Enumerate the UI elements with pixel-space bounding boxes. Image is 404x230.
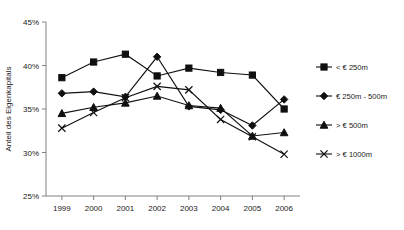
- legend-label: > € 1000m: [336, 150, 372, 159]
- marker-square: [154, 73, 160, 79]
- marker-square: [321, 64, 327, 70]
- marker-square: [59, 75, 65, 81]
- x-tick-label: 2004: [212, 204, 230, 213]
- marker-square: [218, 69, 224, 75]
- legend-item-2[interactable]: € 250m - 500m: [316, 92, 387, 101]
- x-tick-label: 2000: [85, 204, 103, 213]
- x-tick-label: 2002: [148, 204, 166, 213]
- chart-container: 45%40%35%30%25%1999200020012002200320042…: [0, 0, 404, 230]
- x-axis-ticks: 19992000200120022003200420052006: [53, 196, 294, 213]
- series-line: [62, 86, 284, 154]
- line-chart: 45%40%35%30%25%1999200020012002200320042…: [0, 0, 404, 230]
- legend-item-4[interactable]: > € 1000m: [316, 150, 372, 159]
- legend-label: € 250m - 500m: [336, 92, 387, 101]
- y-axis-ticks: 45%40%35%30%25%: [23, 18, 46, 201]
- legend-label: < € 250m: [336, 63, 368, 72]
- marker-diamond: [320, 92, 327, 99]
- y-axis-title: Anteil des Eigenkapitals: [4, 67, 13, 152]
- x-tick-label: 2003: [180, 204, 198, 213]
- y-tick-label: 30%: [23, 149, 39, 158]
- marker-square: [122, 51, 128, 57]
- x-tick-label: 2001: [116, 204, 134, 213]
- legend-item-3[interactable]: > € 500m: [316, 121, 368, 130]
- marker-square: [249, 72, 255, 78]
- legend: < € 250m€ 250m - 500m> € 500m> € 1000m: [316, 63, 387, 159]
- marker-square: [281, 106, 287, 112]
- x-tick-label: 2005: [243, 204, 261, 213]
- x-tick-label: 1999: [53, 204, 71, 213]
- marker-square: [186, 65, 192, 71]
- y-tick-label: 35%: [23, 105, 39, 114]
- legend-item-1[interactable]: < € 250m: [316, 63, 368, 72]
- marker-triangle: [153, 92, 161, 99]
- legend-label: > € 500m: [336, 121, 368, 130]
- series-3: [58, 92, 288, 139]
- series-line: [62, 96, 284, 136]
- x-tick-label: 2006: [275, 204, 293, 213]
- marker-diamond: [90, 88, 97, 95]
- marker-diamond: [58, 90, 65, 97]
- y-tick-label: 25%: [23, 192, 39, 201]
- y-tick-label: 45%: [23, 18, 39, 27]
- marker-square: [91, 59, 97, 65]
- y-tick-label: 40%: [23, 62, 39, 71]
- marker-triangle: [280, 129, 288, 136]
